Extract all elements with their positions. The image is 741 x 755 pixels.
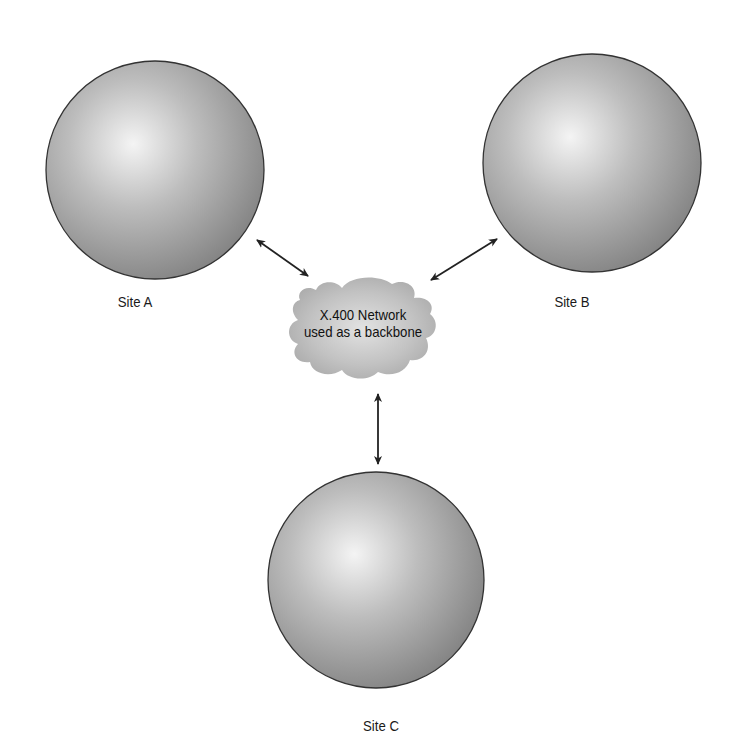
site-a-sphere-icon (46, 61, 264, 279)
site-b-sphere-icon (483, 54, 701, 272)
site-a-label: Site A (109, 293, 162, 310)
network-diagram: Site A Site B Site C X.400 Network used … (0, 0, 741, 755)
site-c-node (268, 472, 484, 688)
site-a-node (46, 61, 264, 279)
site-b-label: Site B (546, 293, 599, 310)
backbone-label: X.400 Network used as a backbone (301, 306, 426, 340)
arrow-site-a-backbone (257, 240, 308, 276)
site-c-sphere-icon (268, 472, 484, 688)
backbone-label-line1: X.400 Network (301, 306, 426, 323)
site-b-node (483, 54, 701, 272)
backbone-label-line2: used as a backbone (301, 323, 426, 340)
arrow-site-b-backbone (431, 239, 497, 280)
site-c-label: Site C (355, 717, 408, 734)
diagram-canvas (0, 0, 741, 755)
